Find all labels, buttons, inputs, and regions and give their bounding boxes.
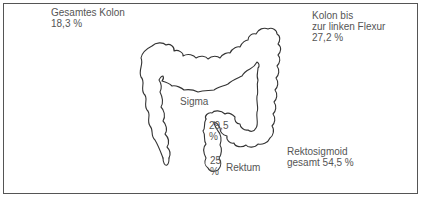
rectosigmoid-line1: Rektosigmoid xyxy=(287,146,354,157)
left-flexure-line1: Kolon bis xyxy=(312,10,385,21)
total-colon-value: 18,3 % xyxy=(51,18,125,29)
left-flexure-line2: zur linken Flexur xyxy=(312,21,385,32)
sigma-percentage: 29,5 % xyxy=(209,120,228,142)
rectum-percentage-number: 25 xyxy=(210,155,221,166)
total-colon-title: Gesamtes Kolon xyxy=(51,7,125,18)
rectum-percentage-unit: % xyxy=(210,166,221,177)
left-flexure-label: Kolon bis zur linken Flexur 27,2 % xyxy=(312,10,385,43)
sigma-percentage-number: 29,5 xyxy=(209,120,228,131)
total-colon-label: Gesamtes Kolon 18,3 % xyxy=(51,7,125,29)
sigma-label: Sigma xyxy=(180,96,208,107)
rectosigmoid-line2: gesamt 54,5 % xyxy=(287,157,354,168)
colon-inner-outline xyxy=(159,62,259,158)
rectosigmoid-label: Rektosigmoid gesamt 54,5 % xyxy=(287,146,354,168)
rectum-label: Rektum xyxy=(226,162,260,173)
rectum-percentage: 25 % xyxy=(210,155,221,177)
left-flexure-value: 27,2 % xyxy=(312,32,385,43)
sigma-percentage-unit: % xyxy=(209,131,228,142)
appendix-outline xyxy=(163,158,169,165)
